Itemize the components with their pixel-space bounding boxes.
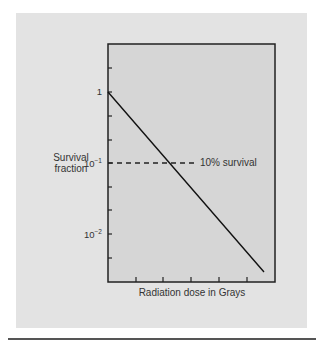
x-axis-label: Radiation dose in Grays <box>108 287 276 298</box>
ten-percent-annotation: 10% survival <box>200 157 257 168</box>
y-tick-label-10e-2: 10−2 <box>72 228 102 240</box>
y-tick-label-1: 1 <box>72 86 102 97</box>
y-tick-label-10e-1: 10−1 <box>72 157 102 169</box>
bottom-rule <box>8 338 316 340</box>
